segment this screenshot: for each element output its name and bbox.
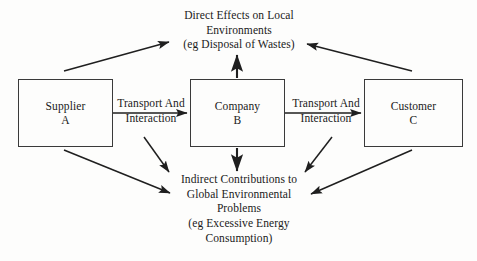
- edge-label-transport-bc-line1: Transport And: [285, 96, 367, 111]
- edge-label-transport-bc-line2: Interaction: [285, 111, 367, 126]
- direct-effects-line-2: Environments: [163, 23, 315, 38]
- node-company-b[interactable]: Company B: [190, 79, 285, 147]
- indirect-contributions-line-4: (eg Excessive Energy: [158, 216, 320, 231]
- edge-label-transport-ab: Transport And Interaction: [110, 96, 192, 126]
- edge-label-transport-bc: Transport And Interaction: [285, 96, 367, 126]
- node-supplier-a-title: Supplier: [46, 99, 86, 113]
- indirect-contributions-line-3: Problems: [158, 201, 320, 216]
- arrow-company-left-to-indirect-contributions: [144, 137, 169, 172]
- direct-effects-line-3: (eg Disposal of Wastes): [163, 37, 315, 52]
- indirect-contributions-line-2: Global Environmental: [158, 187, 320, 202]
- node-customer-c-title: Customer: [391, 99, 437, 113]
- text-block-direct-effects: Direct Effects on Local Environments (eg…: [163, 8, 315, 52]
- environmental-impact-diagram: Supplier A Company B Customer C Transpor…: [0, 0, 477, 261]
- node-customer-c[interactable]: Customer C: [364, 79, 463, 147]
- edge-label-transport-ab-line1: Transport And: [110, 96, 192, 111]
- text-block-indirect-contributions: Indirect Contributions to Global Environ…: [158, 172, 320, 246]
- indirect-contributions-line-1: Indirect Contributions to: [158, 172, 320, 187]
- node-company-b-title: Company: [215, 99, 260, 113]
- arrow-supplier-to-direct-effects: [64, 42, 169, 71]
- indirect-contributions-line-5: Consumption): [158, 231, 320, 246]
- node-supplier-a-sublabel: A: [61, 113, 69, 127]
- arrow-company-right-to-indirect-contributions: [305, 137, 332, 172]
- edge-label-transport-ab-line2: Interaction: [110, 111, 192, 126]
- node-customer-c-sublabel: C: [410, 113, 418, 127]
- arrow-supplier-to-indirect-contributions: [64, 150, 170, 193]
- node-supplier-a[interactable]: Supplier A: [18, 79, 113, 147]
- arrow-customer-to-direct-effects: [307, 44, 412, 71]
- direct-effects-line-1: Direct Effects on Local: [163, 8, 315, 23]
- node-company-b-sublabel: B: [234, 113, 242, 127]
- arrow-customer-to-indirect-contributions: [311, 150, 412, 194]
